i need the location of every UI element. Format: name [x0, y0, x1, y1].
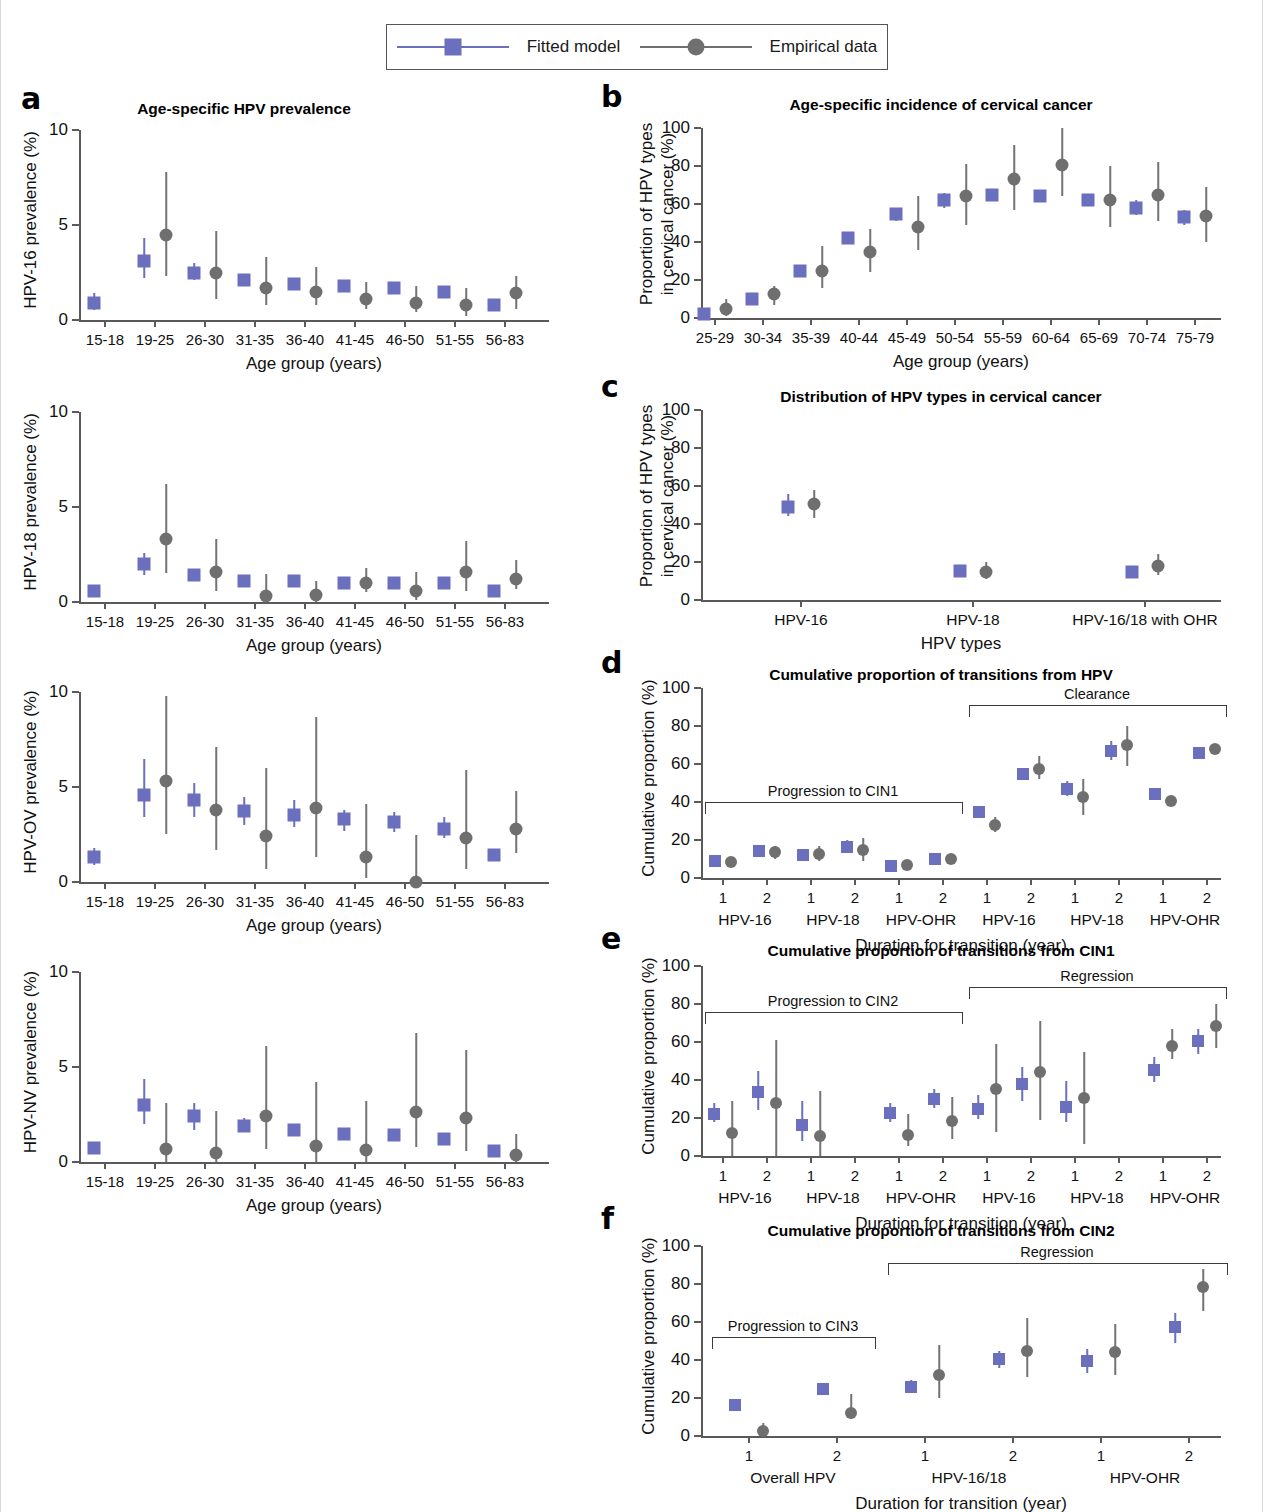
subplot-hpv16-prevalence: 051015-1819-2526-3031-3536-4041-4546-505…	[79, 130, 549, 440]
y-axis-label: Proportion of HPV types	[637, 392, 657, 600]
x-tick	[1144, 600, 1146, 607]
x-tick	[404, 320, 406, 327]
fitted-model-marker	[338, 813, 351, 826]
y-tick	[694, 1117, 701, 1119]
x-tick	[898, 878, 900, 885]
x-tick	[154, 320, 156, 327]
x-tick-label: 19-25	[136, 1173, 174, 1190]
fitted-model-marker	[938, 194, 951, 207]
d-axes: 020406080100121212121212HPV-16HPV-18HPV-…	[701, 688, 1221, 878]
x-tick	[304, 882, 306, 889]
x-tick-label: 41-45	[336, 893, 374, 910]
annotation-bracket-label: Clearance	[1064, 686, 1130, 702]
empirical-data-marker	[1200, 210, 1213, 223]
y-tick	[694, 1245, 701, 1247]
x-tick	[1030, 878, 1032, 885]
empirical-error-bar	[165, 172, 167, 277]
panel-d-title: Cumulative proportion of transitions fro…	[661, 666, 1221, 684]
empirical-data-marker	[410, 1105, 423, 1118]
x-axis-label: Age group (years)	[79, 916, 549, 936]
y-tick	[694, 1435, 701, 1437]
y-tick	[694, 409, 701, 411]
x-tick	[810, 878, 812, 885]
x-tick-label: 51-55	[436, 613, 474, 630]
annotation-bracket-label: Regression	[1020, 1244, 1093, 1260]
x-tick	[1012, 1436, 1014, 1443]
y-tick-label: 20	[671, 1108, 690, 1128]
subplot-hpvnv-prevalence: 051015-1819-2526-3031-3536-4041-4546-505…	[79, 972, 549, 1282]
y-tick	[694, 1041, 701, 1043]
x-group-label: HPV-18	[806, 1189, 859, 1207]
empirical-data-marker	[460, 1112, 473, 1125]
x-tick	[154, 602, 156, 609]
y-tick	[72, 129, 79, 131]
x-tick	[354, 320, 356, 327]
x-tick-label: 2	[763, 889, 771, 906]
x-group-label: HPV-16	[718, 911, 771, 929]
legend-label-empirical: Empirical data	[770, 37, 878, 57]
empirical-error-bar	[265, 1046, 267, 1149]
x-tick-label: 51-55	[436, 893, 474, 910]
panel-c-title: Distribution of HPV types in cervical ca…	[661, 388, 1221, 406]
fitted-model-marker	[729, 1399, 741, 1411]
x-tick-label: 2	[1115, 889, 1123, 906]
empirical-error-bar	[819, 1091, 821, 1156]
x-tick-label: 1	[895, 889, 903, 906]
empirical-error-bar	[165, 696, 167, 835]
fitted-model-marker	[138, 558, 151, 571]
x-tick-label: 1	[807, 889, 815, 906]
y-tick-label: 0	[59, 592, 68, 612]
x-tick	[504, 882, 506, 889]
x-tick-label: 31-35	[236, 613, 274, 630]
empirical-data-marker	[980, 566, 993, 579]
y-tick	[694, 725, 701, 727]
y-tick-label: 10	[49, 402, 68, 422]
empirical-data-marker	[1104, 194, 1117, 207]
fitted-model-marker	[188, 569, 201, 582]
x-tick	[1188, 1436, 1190, 1443]
y-axis-label: HPV-16 prevalence (%)	[21, 120, 41, 320]
x-tick	[942, 1156, 944, 1163]
x-tick-label: 41-45	[336, 331, 374, 348]
x-group-label: HPV-OHR	[1150, 1189, 1221, 1207]
x-tick	[722, 878, 724, 885]
x-tick	[504, 1162, 506, 1169]
empirical-data-marker	[901, 859, 913, 871]
empirical-data-marker	[310, 801, 323, 814]
empirical-data-marker	[160, 775, 173, 788]
y-tick-label: 60	[671, 1312, 690, 1332]
empirical-data-marker	[510, 573, 523, 586]
annotation-bracket-label: Regression	[1060, 968, 1133, 984]
empirical-data-marker	[813, 848, 825, 860]
x-tick-label: 1	[1159, 1167, 1167, 1184]
x-tick	[906, 318, 908, 325]
y-tick	[694, 127, 701, 129]
fitted-model-marker	[796, 1119, 808, 1131]
empirical-data-marker	[933, 1369, 945, 1381]
y-tick-label: 5	[59, 497, 68, 517]
x-tick	[504, 320, 506, 327]
x-group-label: HPV-18	[1070, 911, 1123, 929]
y-tick	[72, 224, 79, 226]
fitted-model-marker	[972, 1103, 984, 1115]
y-axis-line	[701, 688, 703, 878]
fitted-model-marker	[954, 564, 967, 577]
x-tick	[942, 878, 944, 885]
x-tick	[1146, 318, 1148, 325]
fitted-model-marker	[188, 794, 201, 807]
annotation-bracket	[969, 705, 1228, 717]
y-axis-line	[701, 128, 703, 318]
legend-item-fitted-model: Fitted model	[397, 37, 621, 57]
empirical-data-marker	[310, 1139, 323, 1152]
fitted-model-marker	[752, 1086, 764, 1098]
annotation-bracket	[705, 802, 964, 814]
empirical-data-marker	[864, 246, 877, 259]
empirical-data-marker	[816, 265, 829, 278]
empirical-data-marker	[902, 1129, 914, 1141]
empirical-data-marker	[260, 281, 273, 294]
legend-line-fitted	[397, 46, 509, 48]
y-tick	[72, 506, 79, 508]
fitted-model-marker	[753, 845, 765, 857]
annotation-bracket-label: Progression to CIN2	[768, 993, 899, 1009]
y-axis-label: HPV-18 prevalence (%)	[21, 402, 41, 602]
